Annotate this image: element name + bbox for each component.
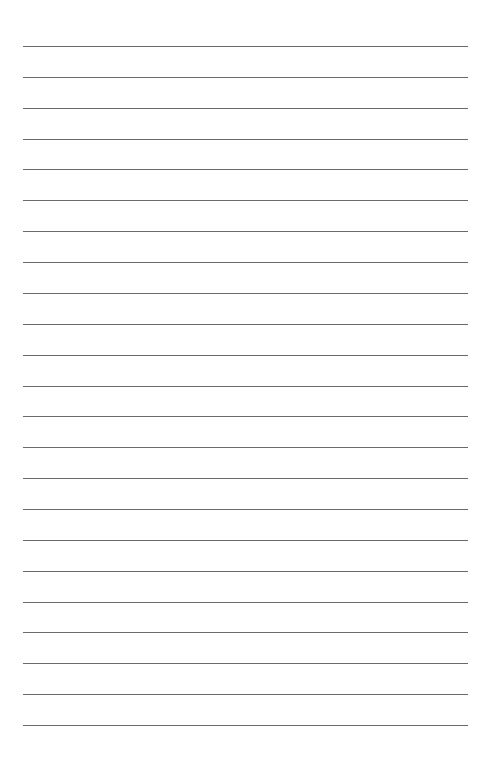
- ruled-line: [23, 602, 468, 603]
- ruled-line: [23, 447, 468, 448]
- ruled-line: [23, 139, 468, 140]
- ruled-line: [23, 416, 468, 417]
- ruled-line: [23, 355, 468, 356]
- ruled-line: [23, 324, 468, 325]
- ruled-line: [23, 725, 468, 726]
- ruled-line: [23, 540, 468, 541]
- ruled-line: [23, 478, 468, 479]
- ruled-line: [23, 293, 468, 294]
- ruled-line: [23, 46, 468, 47]
- ruled-line: [23, 200, 468, 201]
- ruled-line: [23, 509, 468, 510]
- ruled-line: [23, 231, 468, 232]
- ruled-line: [23, 262, 468, 263]
- ruled-line: [23, 694, 468, 695]
- lined-paper-page: [0, 0, 490, 764]
- ruled-line: [23, 632, 468, 633]
- ruled-line: [23, 77, 468, 78]
- ruled-line: [23, 169, 468, 170]
- ruled-line: [23, 571, 468, 572]
- ruled-line: [23, 386, 468, 387]
- ruled-line: [23, 663, 468, 664]
- ruled-line: [23, 108, 468, 109]
